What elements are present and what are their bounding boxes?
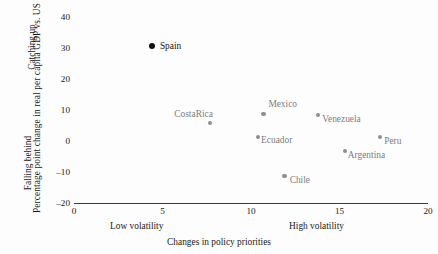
data-point-ecuador[interactable] bbox=[256, 135, 260, 139]
data-point-chile[interactable] bbox=[282, 174, 286, 178]
data-point-label-chile: Chile bbox=[290, 175, 310, 185]
data-point-label-mexico: Mexico bbox=[268, 99, 297, 109]
data-point-label-venezuela: Venezuela bbox=[322, 114, 361, 124]
data-point-label-peru: Peru bbox=[384, 136, 401, 146]
scatter-chart-figure: Percentage point change in real per capi… bbox=[0, 0, 438, 254]
data-point-label-spain: Spain bbox=[160, 41, 181, 51]
data-point-venezuela[interactable] bbox=[316, 113, 320, 117]
plot-area: SpainCostaRicaMexicoEcuadorVenezuelaPeru… bbox=[0, 0, 438, 254]
data-point-spain[interactable] bbox=[149, 43, 155, 49]
data-point-label-ecuador: Ecuador bbox=[261, 135, 292, 145]
data-point-costarica[interactable] bbox=[208, 121, 212, 125]
data-point-argentina[interactable] bbox=[343, 149, 347, 153]
data-point-label-costarica: CostaRica bbox=[174, 109, 213, 119]
data-point-mexico[interactable] bbox=[261, 112, 265, 116]
data-point-peru[interactable] bbox=[378, 135, 382, 139]
data-point-label-argentina: Argentina bbox=[348, 150, 385, 160]
